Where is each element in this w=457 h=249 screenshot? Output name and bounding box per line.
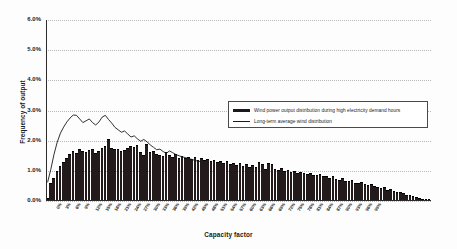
x-tick-label: 30% bbox=[152, 202, 161, 212]
x-tick-label: 15% bbox=[104, 202, 113, 212]
x-tick-label: 21% bbox=[123, 202, 132, 212]
legend-label-line: Long-term average wind distribution bbox=[254, 119, 332, 124]
x-tick-label: 93% bbox=[354, 202, 363, 212]
y-tick-label: 2.0% bbox=[3, 137, 41, 143]
x-tick-label: 36% bbox=[171, 202, 180, 212]
chart-legend: Wind power output distribution during hi… bbox=[228, 101, 428, 128]
x-tick-label: 27% bbox=[143, 202, 152, 212]
x-tick-label: 24% bbox=[133, 202, 142, 212]
x-tick-label: 18% bbox=[114, 202, 123, 212]
x-tick-label: 33% bbox=[162, 202, 171, 212]
x-tick-label: 96% bbox=[364, 202, 373, 212]
x-tick-label: 0% bbox=[55, 202, 63, 210]
y-tick-label: 4.0% bbox=[3, 76, 41, 82]
x-tick-label: 57% bbox=[239, 202, 248, 212]
x-tick-label: 78% bbox=[306, 202, 315, 212]
legend-entry-bar: Wind power output distribution during hi… bbox=[233, 105, 423, 116]
x-tick-label: 39% bbox=[181, 202, 190, 212]
x-tick-label: 81% bbox=[316, 202, 325, 212]
y-axis-line bbox=[46, 20, 47, 201]
chart-figure: Frequency of output 0.0%1.0%2.0%3.0%4.0%… bbox=[0, 0, 457, 249]
x-tick-label: 84% bbox=[325, 202, 334, 212]
y-tick-label: 0.0% bbox=[3, 197, 41, 203]
legend-entry-line: Long-term average wind distribution bbox=[233, 116, 423, 127]
x-tick-label: 3% bbox=[64, 202, 72, 210]
x-tick-label: 45% bbox=[200, 202, 209, 212]
x-tick-label: 6% bbox=[74, 202, 82, 210]
x-tick-label: 69% bbox=[277, 202, 286, 212]
x-tick-label: 54% bbox=[229, 202, 238, 212]
x-tick-label: 63% bbox=[258, 202, 267, 212]
y-tick-label: 1.0% bbox=[3, 167, 41, 173]
x-tick-label: 66% bbox=[268, 202, 277, 212]
x-tick-label: 99% bbox=[374, 202, 383, 212]
long-term-average-line bbox=[48, 115, 205, 182]
x-tick-label: 51% bbox=[220, 202, 229, 212]
x-tick-label: 75% bbox=[297, 202, 306, 212]
legend-line-swatch-icon bbox=[233, 121, 250, 122]
y-axis-title: Frequency of output bbox=[19, 0, 31, 52]
y-tick-label: 3.0% bbox=[3, 107, 41, 113]
x-tick-label: 42% bbox=[191, 202, 200, 212]
x-axis-line bbox=[46, 200, 431, 201]
x-tick-label: 72% bbox=[287, 202, 296, 212]
y-tick-label: 5.0% bbox=[3, 46, 41, 52]
y-tick-label: 6.0% bbox=[3, 16, 41, 22]
x-axis-title: Capacity factor bbox=[0, 231, 457, 238]
x-tick-label: 48% bbox=[210, 202, 219, 212]
x-tick-label: 12% bbox=[94, 202, 103, 212]
legend-label-bar: Wind power output distribution during hi… bbox=[254, 108, 400, 113]
x-tick-label: 9% bbox=[84, 202, 92, 210]
x-tick-label: 87% bbox=[335, 202, 344, 212]
x-tick-label: 60% bbox=[248, 202, 257, 212]
x-tick-label: 90% bbox=[345, 202, 354, 212]
legend-bar-swatch-icon bbox=[233, 109, 250, 112]
x-tick-labels: 0%3%6%9%12%15%18%21%24%27%30%33%36%39%42… bbox=[46, 202, 431, 228]
